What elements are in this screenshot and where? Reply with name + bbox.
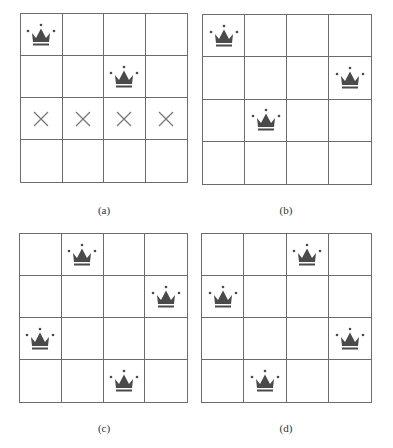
board-cell <box>104 98 146 140</box>
queen-crown-icon <box>335 65 365 91</box>
board-cell <box>21 98 63 140</box>
board-cell <box>329 276 371 318</box>
board-cell <box>62 360 104 402</box>
cross-mark-icon <box>32 110 50 128</box>
board-cell <box>245 57 287 99</box>
board-cell <box>62 276 104 318</box>
board-cell <box>63 98 105 140</box>
queen-crown-icon <box>26 22 56 48</box>
board-cell <box>202 276 244 318</box>
board-cell <box>146 98 188 140</box>
board-cell <box>62 318 104 360</box>
board-cell <box>145 318 187 360</box>
queen-crown-icon <box>109 64 139 90</box>
cross-mark-icon <box>74 110 92 128</box>
board-cell <box>329 360 371 402</box>
board-cell <box>287 318 329 360</box>
board-cell <box>203 57 245 99</box>
queen-crown-icon <box>209 23 239 49</box>
board-cell <box>21 56 63 98</box>
board-cell <box>21 14 63 56</box>
board-cell <box>245 142 287 184</box>
board-cell <box>329 142 371 184</box>
cross-mark-icon <box>157 110 175 128</box>
board-cell <box>145 360 187 402</box>
board-cell <box>203 100 245 142</box>
board-cell <box>104 360 146 402</box>
queen-crown-icon <box>25 326 55 352</box>
board-cell <box>329 318 371 360</box>
board-cell <box>20 318 62 360</box>
board-cell <box>145 234 187 276</box>
board-d <box>201 233 372 403</box>
board-cell <box>287 142 329 184</box>
queen-crown-icon <box>151 284 181 310</box>
board-cell <box>202 360 244 402</box>
board-cell <box>245 15 287 57</box>
board-b <box>202 14 372 185</box>
board-cell <box>329 15 371 57</box>
board-cell <box>20 360 62 402</box>
board-cell <box>202 234 244 276</box>
board-cell <box>104 276 146 318</box>
board-cell <box>63 14 105 56</box>
board-cell <box>20 234 62 276</box>
board-cell <box>63 140 105 182</box>
board-cell <box>244 276 286 318</box>
board-cell <box>287 360 329 402</box>
board-cell <box>146 140 188 182</box>
board-cell <box>329 234 371 276</box>
queen-crown-icon <box>292 242 322 268</box>
board-cell <box>63 56 105 98</box>
board-cell <box>104 14 146 56</box>
board-cell <box>244 234 286 276</box>
cross-mark-icon <box>115 110 133 128</box>
board-cell <box>104 234 146 276</box>
board-cell <box>104 56 146 98</box>
board-cell <box>244 318 286 360</box>
board-cell <box>329 57 371 99</box>
label-d: (d) <box>256 422 316 434</box>
board-cell <box>287 276 329 318</box>
board-cell <box>287 57 329 99</box>
board-cell <box>21 140 63 182</box>
label-c: (c) <box>74 422 134 434</box>
queen-crown-icon <box>109 368 139 394</box>
board-cell <box>104 318 146 360</box>
board-cell <box>287 15 329 57</box>
queen-crown-icon <box>335 326 365 352</box>
board-cell <box>245 100 287 142</box>
board-cell <box>104 140 146 182</box>
board-cell <box>203 142 245 184</box>
board-cell <box>20 276 62 318</box>
queen-crown-icon <box>250 368 280 394</box>
board-cell <box>287 234 329 276</box>
board-cell <box>202 318 244 360</box>
queen-crown-icon <box>251 107 281 133</box>
board-a <box>20 13 188 183</box>
queen-crown-icon <box>208 284 238 310</box>
board-cell <box>146 14 188 56</box>
board-cell <box>203 15 245 57</box>
board-c <box>19 233 188 403</box>
board-cell <box>145 276 187 318</box>
queen-crown-icon <box>67 242 97 268</box>
board-cell <box>329 100 371 142</box>
board-cell <box>62 234 104 276</box>
label-b: (b) <box>256 204 316 216</box>
board-cell <box>287 100 329 142</box>
board-cell <box>146 56 188 98</box>
label-a: (a) <box>74 204 134 216</box>
board-cell <box>244 360 286 402</box>
